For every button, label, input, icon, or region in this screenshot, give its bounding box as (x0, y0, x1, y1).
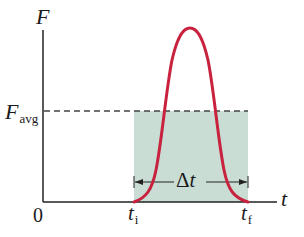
ti-label: ti (128, 203, 138, 224)
favg-label: Favg (5, 101, 38, 123)
force-time-diagram (0, 0, 304, 237)
tf-label-sub: f (248, 212, 252, 227)
delta-t-text: Δt (176, 168, 195, 192)
ti-label-sub: i (135, 212, 139, 227)
favg-label-main: F (5, 99, 18, 124)
favg-label-sub: avg (19, 111, 38, 126)
delta-t-label: Δt (176, 170, 195, 191)
origin-label: 0 (33, 205, 43, 225)
x-axis-label: t (281, 188, 287, 210)
tf-label: tf (241, 203, 252, 224)
tf-label-main: t (241, 201, 247, 225)
ti-label-main: t (128, 201, 134, 225)
y-axis-label: F (36, 6, 49, 28)
